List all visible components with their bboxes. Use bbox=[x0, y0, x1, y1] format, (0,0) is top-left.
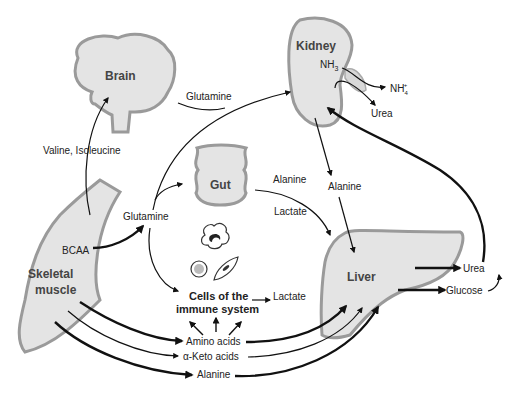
immune-label-1: Cells of the bbox=[189, 290, 248, 302]
keto-acids-label: α-Keto acids bbox=[183, 351, 239, 362]
gut-label: Gut bbox=[210, 178, 231, 192]
metabolism-diagram: Brain Kidney Gut Skeletal muscle Liver C… bbox=[0, 0, 516, 393]
amino-acids-label: Amino acids bbox=[186, 336, 240, 347]
arrow-muscle-keto bbox=[68, 311, 178, 356]
urea-liver-label: Urea bbox=[463, 263, 485, 274]
ureter-shape bbox=[345, 69, 366, 92]
alanine-kidney-label: Alanine bbox=[328, 181, 362, 192]
gut-organ: Gut bbox=[196, 145, 247, 205]
immune-label-2: immune system bbox=[176, 303, 259, 315]
urea-kidney-label: Urea bbox=[371, 108, 393, 119]
arrow-glutamine-gut bbox=[155, 184, 182, 200]
lymphocyte-nucleus-icon bbox=[194, 264, 204, 274]
arrow-aa-immune-right bbox=[229, 322, 241, 335]
alanine-gut-label: Alanine bbox=[273, 174, 307, 185]
arrow-glucose-up bbox=[488, 275, 499, 291]
liver-organ: Liver bbox=[321, 230, 463, 338]
skeletal-muscle-organ: Skeletal muscle bbox=[19, 180, 120, 352]
arrow-muscle-alanine bbox=[55, 322, 192, 375]
arrow-aa-immune-left bbox=[190, 322, 203, 335]
arrow-glutamine-immune bbox=[149, 228, 178, 291]
brain-label: Brain bbox=[105, 69, 136, 83]
skeletal-muscle-label-2: muscle bbox=[35, 283, 77, 297]
kidney-organ: Kidney bbox=[289, 18, 366, 126]
kidney-label: Kidney bbox=[296, 39, 336, 53]
brain-organ: Brain bbox=[75, 34, 175, 132]
alanine-bottom-label: Alanine bbox=[197, 369, 231, 380]
skeletal-muscle-label-1: Skeletal bbox=[28, 267, 73, 281]
glucose-label: Glucose bbox=[446, 285, 483, 296]
glutamine-mid-label: Glutamine bbox=[123, 211, 169, 222]
glutamine-top-label: Glutamine bbox=[186, 91, 232, 102]
arrow-muscle-amino bbox=[80, 302, 182, 341]
arrow-glutamine-top-curve bbox=[178, 103, 225, 110]
lactate-gut-label: Lactate bbox=[274, 206, 307, 217]
liver-label: Liver bbox=[347, 270, 376, 284]
lactate-immune-label: Lactate bbox=[273, 291, 306, 302]
bcaa-label: BCAA bbox=[62, 245, 90, 256]
immune-cells-icons: Cells of the immune system bbox=[176, 224, 259, 315]
nh4-label: NH4+ bbox=[390, 82, 408, 96]
valine-isoleucine-label: Valine, Isoleucine bbox=[43, 145, 121, 156]
